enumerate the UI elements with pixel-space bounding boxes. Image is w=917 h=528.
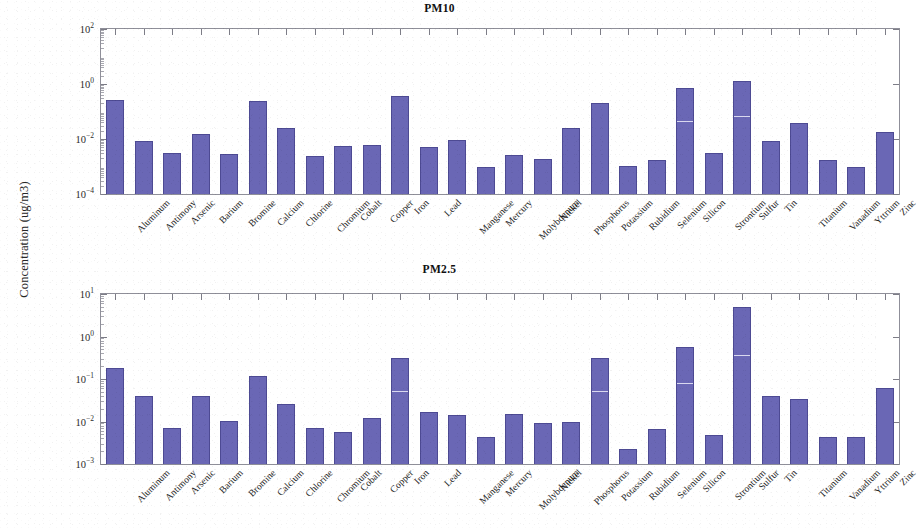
y-axis-tick-right [893,84,899,85]
bar-seam [734,355,750,356]
x-axis-tick [856,29,857,35]
y-axis-minor-tick [101,114,104,115]
y-axis-minor-tick [101,168,104,169]
y-axis-minor-tick [101,301,104,302]
y-axis-minor-tick [101,346,104,347]
x-axis-tick-label: Titanium [817,197,850,230]
bar [277,404,295,464]
plot-area-pm25 [100,293,900,465]
bar [163,428,181,464]
x-axis-tick [229,29,230,35]
bar [733,81,751,194]
y-axis-tick-label: 100 [58,329,94,343]
x-axis-tick [486,29,487,35]
x-axis-tick [115,29,116,35]
y-axis-tick-label: 10−1 [58,371,94,385]
bar [192,396,210,464]
bar [505,414,523,464]
x-axis-tick [514,29,515,35]
bar [790,399,808,464]
bar [135,141,153,194]
y-axis-minor-tick [101,37,104,38]
x-axis-tick [343,29,344,35]
y-axis-minor-tick [101,366,104,367]
y-axis-minor-tick [101,65,104,66]
bar [391,96,409,194]
y-axis-minor-tick [101,392,104,393]
y-axis-minor-tick [101,359,104,360]
bar [106,100,124,194]
x-axis-tick [514,294,515,300]
y-axis-minor-tick [101,316,104,317]
y-axis-minor-tick [101,63,104,64]
bar [363,418,381,464]
x-axis-tick-label: Iron [412,467,431,486]
x-axis-tick [543,29,544,35]
bar [591,358,609,464]
bar [505,155,523,194]
x-axis-tick [600,29,601,35]
bar [306,156,324,194]
bar [819,160,837,194]
y-axis-minor-tick [101,61,104,62]
y-axis-tick-right [893,337,899,338]
y-axis-minor-tick [101,428,104,429]
y-axis-tick-label: 100 [58,76,94,90]
y-axis-minor-tick [101,388,104,389]
y-axis-minor-tick [101,40,104,41]
y-axis-minor-tick [101,401,104,402]
bar [306,428,324,464]
y-axis-minor-tick [101,169,104,170]
y-axis-minor-tick [101,324,104,325]
x-axis-tick [543,294,544,300]
y-axis-tick [101,337,107,338]
y-axis-minor-tick [101,303,104,304]
y-axis-minor-tick [101,338,104,339]
x-axis-tick [799,294,800,300]
bar [648,160,666,194]
bar [876,132,894,194]
y-axis-minor-tick [101,177,104,178]
x-axis-tick [714,29,715,35]
bar [762,141,780,194]
y-axis-minor-tick [101,341,104,342]
x-axis-tick [571,294,572,300]
x-axis-tick [372,29,373,35]
bar [676,347,694,464]
bar [448,415,466,464]
bar [876,388,894,464]
x-axis-tick [258,29,259,35]
x-axis-tick [201,29,202,35]
bar [334,146,352,194]
x-axis-tick-label: Bromine [246,467,278,499]
x-axis-tick-label: Barium [216,467,244,495]
bar [249,101,267,194]
bar [220,421,238,464]
x-axis-tick [315,29,316,35]
x-axis-tick-label: Lead [441,197,462,218]
x-axis-tick-label: Titanium [817,467,850,500]
x-axis-tick [799,29,800,35]
x-axis-tick-label: Chlorine [303,467,335,499]
bar [192,134,210,194]
x-axis-tick [571,29,572,35]
x-axis-tick-label: Copper [387,467,415,495]
y-axis-minor-tick [101,33,104,34]
x-axis-tick [343,294,344,300]
bar [648,429,666,464]
x-axis-tick [172,294,173,300]
y-axis-minor-tick [101,113,104,114]
y-axis-minor-tick [101,451,104,452]
y-axis-minor-tick [101,143,104,144]
x-axis-tick-label: Nickel [557,467,583,493]
x-axis-tick [286,294,287,300]
y-axis-tick-right [893,29,899,30]
x-axis-tick [657,29,658,35]
y-axis-tick-label: 10−3 [58,456,94,470]
x-axis-tick-label: Zinc [897,467,917,487]
x-axis-tick [600,294,601,300]
y-axis-tick-right [893,294,899,295]
x-axis-tick-label: Calcium [274,197,305,228]
x-axis-tick [771,29,772,35]
